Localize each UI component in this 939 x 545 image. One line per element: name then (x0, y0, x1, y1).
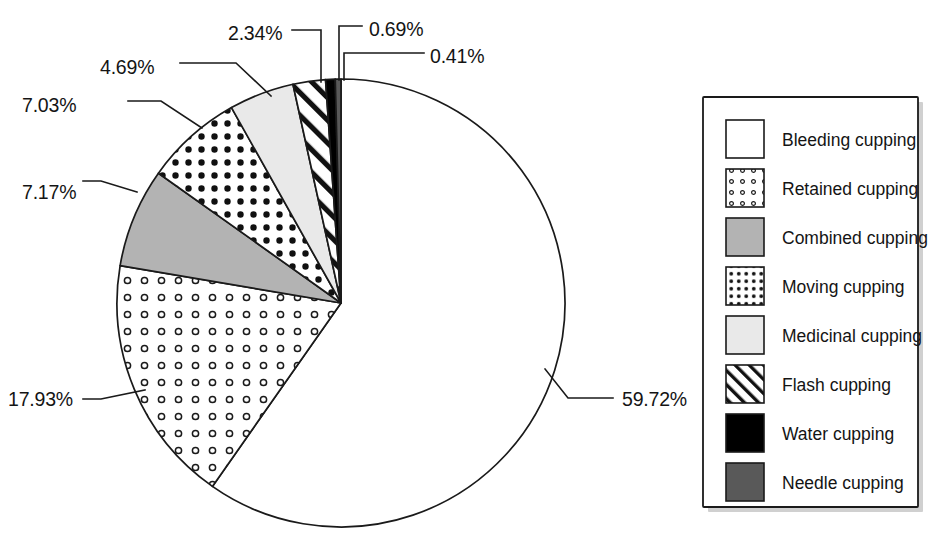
pie-chart-figure: 59.72%17.93%7.17%7.03%4.69%2.34%0.69%0.4… (0, 0, 939, 545)
slice-percent-label: 0.69% (369, 18, 423, 40)
legend: Bleeding cuppingRetained cuppingCombined… (703, 97, 928, 512)
label-leader-line (344, 53, 424, 80)
label-leader-line (180, 63, 271, 96)
label-leader-line (128, 101, 202, 128)
pie-slices-group (117, 79, 565, 527)
slice-percent-label: 0.41% (430, 45, 484, 67)
legend-label: Bleeding cupping (782, 130, 916, 150)
chart-canvas: 59.72%17.93%7.17%7.03%4.69%2.34%0.69%0.4… (0, 0, 939, 545)
slice-percent-label: 4.69% (100, 56, 154, 78)
label-leader-line (83, 181, 137, 192)
label-leader-line (545, 369, 613, 398)
legend-swatch[interactable] (726, 267, 764, 305)
slice-percent-label: 2.34% (228, 22, 282, 44)
slice-percent-label: 17.93% (8, 388, 73, 410)
legend-swatch[interactable] (726, 169, 764, 207)
slice-percent-label: 7.17% (22, 181, 76, 203)
legend-swatch[interactable] (726, 218, 764, 256)
legend-label: Moving cupping (782, 277, 905, 297)
legend-label: Retained cupping (782, 179, 918, 199)
legend-label: Medicinal cupping (782, 326, 922, 346)
legend-swatch[interactable] (726, 120, 764, 158)
legend-label: Needle cupping (782, 473, 904, 493)
slice-percent-label: 7.03% (22, 94, 76, 116)
legend-label: Combined cupping (782, 228, 928, 248)
legend-swatch[interactable] (726, 463, 764, 501)
label-leader-line (292, 30, 321, 82)
legend-swatch[interactable] (726, 365, 764, 403)
legend-label: Water cupping (782, 424, 894, 444)
legend-swatch[interactable] (726, 316, 764, 354)
legend-swatch[interactable] (726, 414, 764, 452)
slice-percent-label: 59.72% (622, 388, 687, 410)
legend-label: Flash cupping (782, 375, 891, 395)
